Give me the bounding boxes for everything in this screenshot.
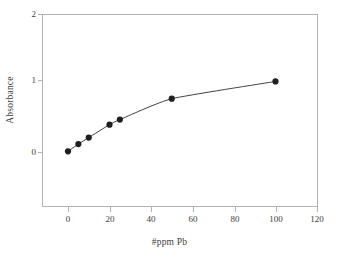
series-curve [68, 81, 276, 151]
y-tick-label-2: 2 [24, 10, 36, 19]
data-point [86, 135, 92, 141]
x-tick-label-20: 20 [106, 215, 115, 224]
data-point [169, 96, 175, 102]
x-tick-mark-0 [68, 207, 69, 212]
y-tick-label-1: 1 [24, 76, 36, 85]
series-markers [65, 78, 279, 154]
x-tick-mark-120 [317, 207, 318, 212]
x-tick-label-120: 120 [310, 215, 324, 224]
data-point [75, 141, 81, 147]
x-tick-label-60: 60 [189, 215, 198, 224]
x-axis-title: #ppm Pb [0, 237, 339, 247]
data-layer [42, 14, 318, 207]
y-axis-title: Absorbance [5, 55, 15, 145]
y-tick-label-0: 0 [24, 148, 36, 157]
x-tick-label-0: 0 [66, 215, 71, 224]
x-tick-label-100: 100 [269, 215, 283, 224]
chart-screenshot: 2 1 0 0 20 40 60 80 100 120 #ppm Pb Abso… [0, 0, 339, 262]
x-tick-label-40: 40 [147, 215, 156, 224]
data-point [117, 117, 123, 123]
data-point [65, 148, 71, 154]
x-tick-label-80: 80 [231, 215, 240, 224]
data-point [272, 78, 278, 84]
x-tick-mark-80 [235, 207, 236, 212]
x-tick-mark-60 [193, 207, 194, 212]
x-tick-mark-40 [151, 207, 152, 212]
data-point [106, 122, 112, 128]
x-tick-mark-100 [276, 207, 277, 212]
x-tick-mark-20 [110, 207, 111, 212]
